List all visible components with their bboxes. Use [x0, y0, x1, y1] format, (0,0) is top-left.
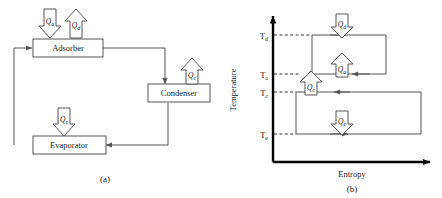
evaporator-label: Evaporator: [50, 140, 88, 150]
q-evaporator-arrow: Qe: [331, 111, 353, 135]
figure-container: Adsorber Condenser Evaporator Qa Qd Qc: [0, 0, 442, 198]
q-out-adsorber-arrow: Qd: [65, 9, 87, 38]
y-axis-label: Temperature: [228, 68, 238, 111]
q-out-condenser-arrow: Qc: [181, 58, 203, 84]
flow-condenser-to-evaporator: [106, 103, 168, 145]
condenser-label: Condenser: [161, 88, 198, 98]
x-axis-label: Entropy: [338, 169, 366, 179]
q-condenser-arrow: Qc: [300, 71, 322, 95]
panel-b: Temperature Entropy Td Ta Tc Te: [228, 14, 430, 194]
y-tick-tc: Tc: [260, 88, 268, 99]
q-desorption-arrow: Qd: [331, 14, 353, 38]
q-in-evaporator-arrow: Qe: [53, 108, 75, 136]
cycle-path-upper: [312, 35, 386, 74]
caption-b: (b): [347, 184, 358, 194]
y-tick-td: Td: [260, 31, 268, 42]
flow-adsorber-to-condenser: [103, 48, 165, 84]
panel-a: Adsorber Condenser Evaporator Qa Qd Qc: [14, 9, 210, 184]
y-tick-te: Te: [260, 130, 268, 141]
y-tick-ta: Ta: [260, 70, 268, 81]
q-in-adsorber-arrow: Qa: [39, 9, 61, 38]
adsorber-label: Adsorber: [52, 43, 84, 53]
caption-a: (a): [100, 174, 110, 184]
flow-evaporator-to-adsorber: [14, 48, 32, 145]
figure-svg: Adsorber Condenser Evaporator Qa Qd Qc: [0, 0, 442, 198]
cycle-path-lower: [296, 92, 421, 134]
q-adsorption-arrow: Qa: [331, 53, 353, 77]
